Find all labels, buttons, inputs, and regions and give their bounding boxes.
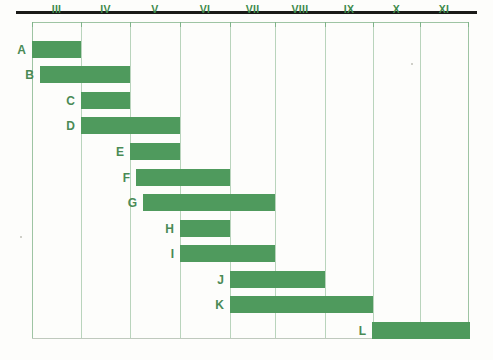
month-header-V: V	[130, 3, 180, 16]
month-header-VI: VI	[180, 3, 230, 16]
task-bar-b[interactable]	[40, 66, 130, 83]
task-bar-a[interactable]	[32, 41, 81, 58]
task-label-f: F	[112, 172, 130, 185]
header-tick-III	[32, 22, 33, 27]
gridline-XI	[420, 22, 421, 338]
task-label-a: A	[8, 44, 26, 57]
task-bar-l[interactable]	[372, 322, 470, 339]
header-tick-X	[373, 22, 374, 27]
gridline-end	[468, 22, 469, 338]
month-header-IX: IX	[325, 3, 373, 16]
scan-speck	[20, 236, 22, 238]
header-tick-XI	[420, 22, 421, 27]
header-tick-end	[468, 22, 469, 27]
month-header-X: X	[373, 3, 420, 16]
month-header-IV: IV	[81, 3, 130, 16]
month-header-VII: VII	[230, 3, 275, 16]
task-bar-e[interactable]	[130, 143, 180, 160]
header-tick-IV	[81, 22, 82, 27]
gantt-chart-figure: IIIIVVVIVIIVIIIIXXXI ABCDEFGHIJKL	[0, 0, 493, 360]
task-bar-k[interactable]	[230, 296, 373, 313]
task-label-h: H	[156, 223, 174, 236]
header-baseline-rule	[32, 22, 468, 23]
gridline-V	[130, 22, 131, 338]
task-label-l: L	[348, 325, 366, 338]
header-tick-VII	[230, 22, 231, 27]
gridline-VII	[230, 22, 231, 338]
header-tick-VI	[180, 22, 181, 27]
task-bar-d[interactable]	[81, 117, 180, 134]
task-bar-i[interactable]	[180, 245, 275, 262]
task-label-d: D	[57, 120, 75, 133]
header-tick-V	[130, 22, 131, 27]
header-tick-VIII	[275, 22, 276, 27]
task-label-j: J	[206, 274, 224, 287]
task-label-g: G	[119, 197, 137, 210]
task-label-e: E	[106, 146, 124, 159]
header-tick-IX	[325, 22, 326, 27]
scan-speck	[411, 63, 413, 65]
task-label-i: I	[156, 248, 174, 261]
month-header-XI: XI	[420, 3, 468, 16]
gridline-X	[373, 22, 374, 338]
task-bar-j[interactable]	[230, 271, 325, 288]
task-label-k: K	[206, 299, 224, 312]
gridline-IX	[325, 22, 326, 338]
task-bar-c[interactable]	[81, 92, 130, 109]
task-label-b: B	[16, 69, 34, 82]
month-header-III: III	[32, 3, 81, 16]
gridline-VIII	[275, 22, 276, 338]
task-bar-f[interactable]	[136, 169, 230, 186]
task-bar-h[interactable]	[180, 220, 230, 237]
task-label-c: C	[57, 95, 75, 108]
month-header-VIII: VIII	[275, 3, 325, 16]
task-bar-g[interactable]	[143, 194, 275, 211]
